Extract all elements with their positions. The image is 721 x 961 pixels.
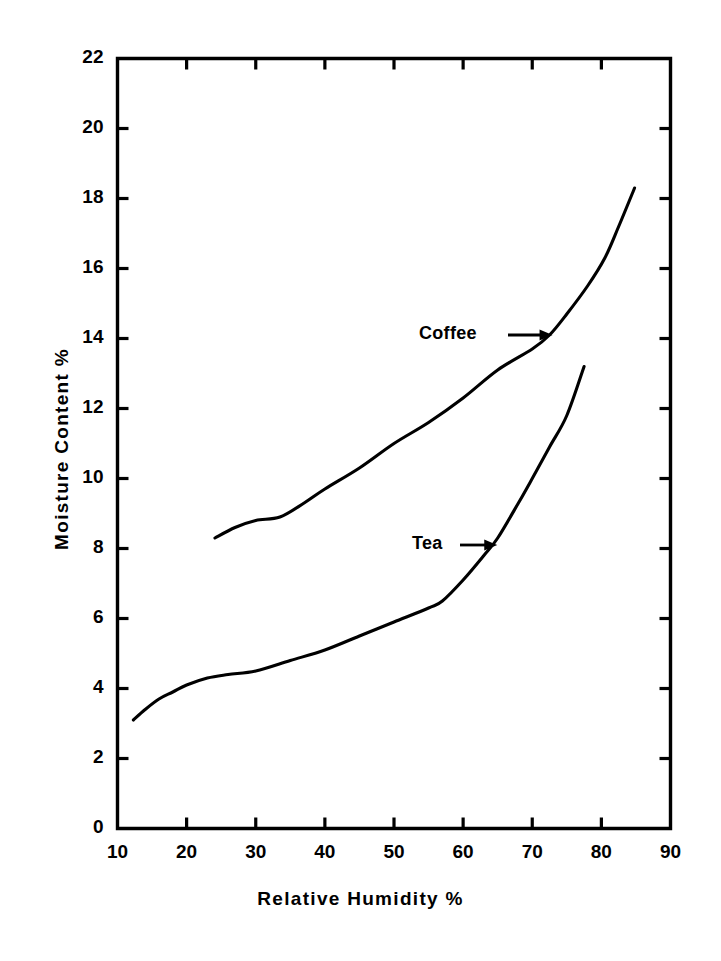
chart-figure: 0246810121416182022 102030405060708090 M… bbox=[0, 0, 721, 961]
y-tick-label: 20 bbox=[44, 116, 104, 138]
x-tick-label: 90 bbox=[641, 841, 701, 863]
y-axis-title: Moisture Content % bbox=[51, 219, 73, 679]
x-tick-label: 70 bbox=[502, 841, 562, 863]
x-tick-label: 60 bbox=[433, 841, 493, 863]
curve-tea bbox=[133, 367, 584, 721]
series-label-coffee: Coffee bbox=[419, 323, 477, 344]
curve-coffee bbox=[215, 188, 635, 538]
x-tick-label: 30 bbox=[226, 841, 286, 863]
x-tick-label: 50 bbox=[364, 841, 424, 863]
data-curves bbox=[133, 188, 634, 720]
x-tick-label: 80 bbox=[571, 841, 631, 863]
y-tick-label: 0 bbox=[44, 816, 104, 838]
x-tick-label: 20 bbox=[157, 841, 217, 863]
y-tick-label: 2 bbox=[44, 746, 104, 768]
x-axis-title: Relative Humidity % bbox=[0, 888, 721, 910]
chart-plot-svg bbox=[0, 0, 721, 961]
x-tick-label: 10 bbox=[88, 841, 148, 863]
series-label-tea: Tea bbox=[412, 533, 443, 554]
y-tick-label: 22 bbox=[44, 46, 104, 68]
x-tick-label: 40 bbox=[295, 841, 355, 863]
y-tick-label: 18 bbox=[44, 186, 104, 208]
